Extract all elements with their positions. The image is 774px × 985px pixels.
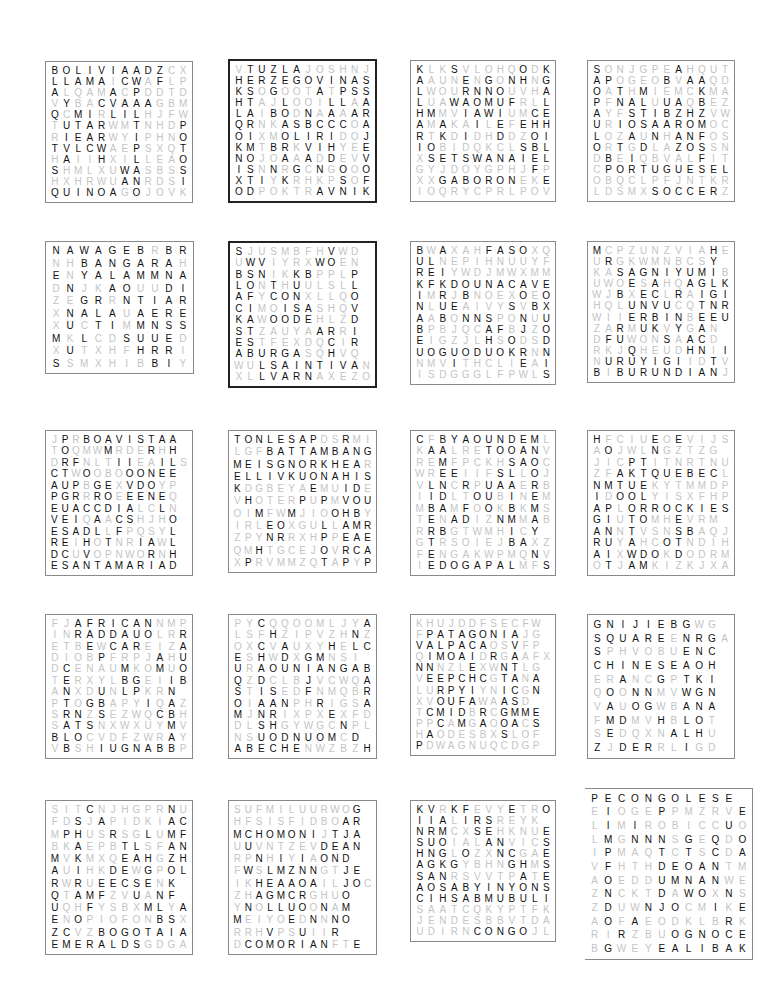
found-letter: G	[120, 258, 134, 271]
letter: Z	[166, 641, 178, 652]
letter: Z	[326, 744, 338, 755]
found-letter: R	[591, 538, 603, 550]
found-letter: E	[286, 914, 297, 926]
letter: P	[414, 719, 425, 730]
found-letter: U	[61, 121, 73, 132]
letter: H	[495, 826, 507, 837]
letter: F	[49, 816, 61, 828]
letter	[541, 674, 552, 685]
found-letter: C	[243, 829, 254, 841]
letter: X	[506, 290, 518, 301]
letter: H	[615, 860, 628, 874]
puzzle-congo: KVRKFEVYETROIIALIRSREYKNRMCXSEHKNUESUOIA…	[410, 800, 556, 942]
found-letter: R	[626, 165, 638, 176]
found-letter: Q	[232, 675, 244, 686]
letter: H	[326, 303, 338, 314]
letter: L	[426, 302, 438, 313]
found-letter: E	[495, 120, 507, 131]
letter: A	[591, 446, 603, 458]
found-letter: C	[119, 878, 131, 890]
found-letter: O	[267, 664, 279, 675]
letter: B	[709, 915, 722, 929]
found-letter: N	[483, 86, 495, 97]
letter: D	[291, 109, 303, 120]
letter: Y	[426, 165, 438, 176]
found-letter	[541, 815, 553, 826]
letter: C	[449, 826, 461, 837]
found-letter: P	[425, 629, 436, 640]
found-letter: I	[105, 320, 119, 333]
letter: A	[718, 632, 731, 646]
found-letter: V	[426, 804, 438, 815]
found-letter: I	[541, 358, 553, 369]
letter: H	[414, 730, 425, 741]
found-letter: U	[603, 538, 615, 550]
letter: D	[297, 914, 308, 926]
letter: L	[337, 280, 349, 291]
found-letter: E	[722, 792, 735, 806]
letter: C	[541, 457, 553, 469]
found-letter: V	[314, 75, 326, 86]
letter: I	[176, 345, 190, 358]
letter: X	[84, 675, 96, 686]
letter: O	[92, 469, 103, 481]
found-letter: S	[531, 719, 542, 730]
letter: M	[682, 806, 695, 820]
letter: S	[244, 732, 256, 743]
letter: D	[529, 916, 541, 927]
found-letter: I	[349, 187, 361, 198]
found-letter: N	[425, 663, 436, 674]
found-letter: A	[360, 120, 372, 131]
letter: Z	[361, 629, 373, 640]
found-letter: B	[460, 176, 472, 187]
letter: D	[176, 333, 190, 346]
found-letter: A	[157, 434, 168, 446]
found-letter: A	[49, 480, 60, 492]
letter: P	[256, 187, 268, 198]
found-letter: L	[414, 98, 426, 109]
found-letter: I	[72, 865, 84, 877]
letter: K	[708, 176, 720, 187]
letter: P	[84, 914, 96, 926]
found-letter: B	[245, 349, 257, 360]
letter: G	[314, 721, 326, 732]
letter: S	[330, 434, 341, 446]
letter: M	[256, 303, 268, 314]
found-letter: A	[154, 927, 166, 939]
found-letter: H	[254, 544, 265, 556]
found-letter: I	[414, 290, 426, 301]
found-letter: O	[661, 187, 673, 198]
letter: I	[472, 256, 484, 267]
letter: U	[330, 483, 341, 495]
found-letter: F	[456, 696, 467, 707]
letter: N	[529, 347, 541, 358]
found-letter: P	[71, 480, 82, 492]
letter: B	[154, 166, 166, 177]
found-letter: N	[472, 313, 484, 324]
found-letter: G	[506, 860, 518, 871]
letter: J	[77, 283, 91, 296]
found-letter: I	[142, 698, 154, 709]
found-letter: O	[337, 165, 349, 176]
letter: G	[154, 853, 166, 865]
found-letter: D	[655, 860, 668, 874]
letter: R	[243, 520, 254, 532]
found-letter: U	[719, 312, 731, 323]
found-letter: A	[695, 874, 708, 888]
found-letter: L	[506, 469, 518, 481]
found-letter: I	[684, 368, 696, 379]
found-letter: S	[709, 792, 722, 806]
letter: Z	[518, 131, 530, 142]
letter: N	[614, 64, 626, 75]
letter: V	[449, 109, 461, 120]
found-letter: N	[682, 874, 695, 888]
letter: X	[338, 709, 350, 720]
letter: U	[142, 721, 154, 732]
found-letter: O	[541, 324, 553, 335]
letter: T	[518, 905, 530, 916]
found-letter: O	[499, 719, 510, 730]
found-letter: T	[314, 360, 326, 371]
found-letter: A	[478, 719, 489, 730]
found-letter: G	[460, 561, 472, 573]
letter: R	[414, 457, 426, 469]
